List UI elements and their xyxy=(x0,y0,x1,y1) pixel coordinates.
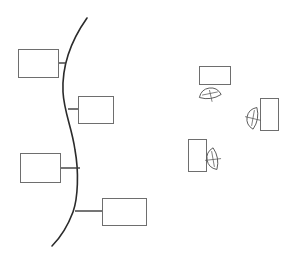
branch-box xyxy=(19,50,59,78)
desk xyxy=(261,99,279,131)
branch-box xyxy=(103,199,147,226)
chair-seat xyxy=(245,106,259,129)
branch-box xyxy=(79,97,114,124)
box-1 xyxy=(19,50,67,78)
workstation-2 xyxy=(243,99,278,131)
box-3 xyxy=(21,154,81,183)
box-2 xyxy=(68,97,114,124)
workstation-3 xyxy=(189,140,223,172)
chair-icon xyxy=(198,87,222,104)
chair-icon xyxy=(243,106,263,130)
diagram-canvas xyxy=(0,0,291,259)
workstation-1 xyxy=(198,67,230,104)
box-4 xyxy=(75,199,147,226)
branch-box xyxy=(21,154,61,183)
desk xyxy=(189,140,207,172)
workstations-group xyxy=(189,67,279,172)
office-layout-diagram xyxy=(0,0,291,259)
desk xyxy=(200,67,231,85)
branch-boxes-group xyxy=(19,50,147,226)
